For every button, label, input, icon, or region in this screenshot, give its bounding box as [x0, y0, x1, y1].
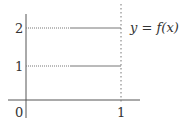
y-tick-label-1: 1 — [15, 59, 23, 74]
diagram-canvas: 2 1 0 1 y = f(x) — [0, 0, 185, 126]
function-annotation: y = f(x) — [129, 20, 179, 35]
x-tick-label-1: 1 — [117, 105, 125, 120]
origin-label: 0 — [15, 105, 23, 120]
y-tick-label-2: 2 — [15, 21, 23, 36]
